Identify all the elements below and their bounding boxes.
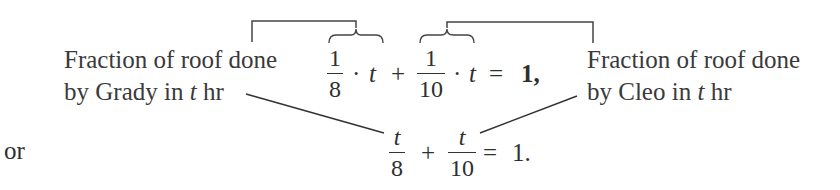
right-annotation: Fraction of roof done by Cleo in t hr bbox=[587, 44, 800, 108]
rhs-value: 1, bbox=[521, 61, 540, 87]
left-brace bbox=[329, 29, 383, 43]
fraction-t-over-10: t 10 bbox=[448, 124, 476, 181]
variable-t: t bbox=[469, 61, 476, 87]
rhs-value: 1. bbox=[512, 140, 531, 166]
multiply-dot: · bbox=[453, 61, 461, 87]
fraction-bar bbox=[389, 152, 405, 153]
fraction-bar bbox=[417, 73, 445, 74]
fraction-bar bbox=[448, 152, 476, 153]
or-connector: or bbox=[4, 135, 25, 167]
equals-sign: = bbox=[483, 140, 497, 166]
right-brace bbox=[420, 29, 474, 43]
fraction-1-over-8: 1 8 bbox=[327, 45, 343, 102]
left-bracket bbox=[252, 21, 356, 42]
multiply-dot: · bbox=[352, 61, 360, 87]
variable-t: t bbox=[190, 78, 197, 105]
right-leader-line bbox=[480, 96, 577, 133]
left-annotation-line1: Fraction of roof done bbox=[64, 44, 277, 76]
equals-sign: = bbox=[489, 61, 503, 87]
fraction-t-over-8: t 8 bbox=[389, 124, 405, 181]
right-bracket bbox=[447, 22, 593, 43]
fraction-bar bbox=[327, 73, 343, 74]
left-annotation: Fraction of roof done by Grady in t hr bbox=[64, 44, 277, 108]
plus-sign: + bbox=[391, 61, 405, 87]
left-annotation-line2: by Grady in t hr bbox=[64, 76, 277, 108]
plus-sign: + bbox=[421, 140, 435, 166]
fraction-1-over-10: 1 10 bbox=[417, 45, 445, 102]
variable-t: t bbox=[369, 61, 376, 87]
right-annotation-line1: Fraction of roof done bbox=[587, 44, 800, 76]
right-annotation-line2: by Cleo in t hr bbox=[587, 76, 800, 108]
